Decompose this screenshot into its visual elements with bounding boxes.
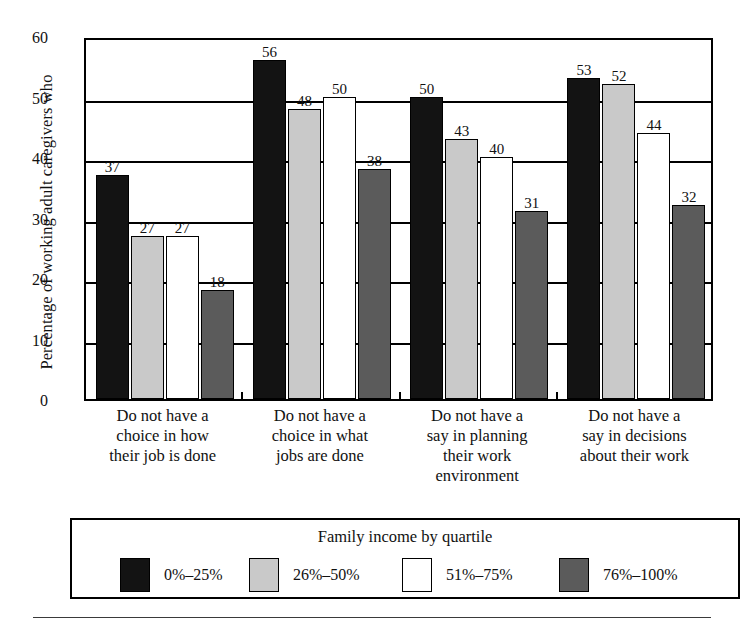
- x-axis-label-line: say in decisions: [556, 426, 713, 446]
- bar: [166, 236, 199, 399]
- x-axis-tick: [241, 392, 243, 401]
- bar-value-label: 18: [210, 275, 225, 290]
- legend-items: 0%–25%26%–50%51%–75%76%–100%: [72, 556, 738, 596]
- x-axis-label-line: choice in what: [241, 426, 398, 446]
- bar-value-label: 50: [332, 82, 347, 97]
- y-axis-tick-label: 40: [0, 150, 48, 168]
- bar-value-label: 38: [367, 154, 382, 169]
- y-axis-tick-label: 10: [0, 332, 48, 350]
- x-axis-label-line: Do not have a: [399, 406, 556, 426]
- bar: [358, 169, 391, 399]
- bar: [602, 84, 635, 399]
- bar-value-label: 31: [524, 196, 539, 211]
- x-axis-label-line: say in planning: [399, 426, 556, 446]
- x-axis-label-line: Do not have a: [241, 406, 398, 426]
- x-axis-label-line: their work: [399, 446, 556, 466]
- x-axis-tick: [399, 392, 401, 401]
- bar: [567, 78, 600, 399]
- y-axis-tick-label: 30: [0, 211, 48, 229]
- x-axis-category-label: Do not have asay in planningtheir worken…: [399, 406, 556, 486]
- legend-label: 0%–25%: [164, 566, 223, 584]
- figure: Percentage of working adult caregivers w…: [0, 0, 743, 634]
- bar-value-label: 27: [140, 221, 155, 236]
- bar: [323, 97, 356, 400]
- y-axis-tick-label: 60: [0, 29, 48, 47]
- x-axis-category-label: Do not have achoice in whatjobs are done: [241, 406, 398, 466]
- bar-value-label: 50: [419, 82, 434, 97]
- bar: [445, 139, 478, 399]
- legend-title: Family income by quartile: [72, 527, 738, 547]
- x-axis-tick: [556, 392, 558, 401]
- bar-value-label: 32: [681, 190, 696, 205]
- legend: Family income by quartile 0%–25%26%–50%5…: [70, 518, 740, 599]
- bar-value-label: 40: [489, 142, 504, 157]
- bar: [253, 60, 286, 399]
- legend-item[interactable]: 0%–25%: [120, 556, 223, 594]
- bar: [410, 97, 443, 400]
- bar-value-label: 48: [297, 94, 312, 109]
- legend-label: 51%–75%: [446, 566, 513, 584]
- x-axis-label-line: Do not have a: [556, 406, 713, 426]
- plot-area: 37272718564850385043403153524432: [84, 38, 713, 401]
- bar: [288, 109, 321, 399]
- x-axis-label-line: choice in how: [84, 426, 241, 446]
- bar-value-label: 44: [646, 118, 661, 133]
- y-axis-tick-label: 50: [0, 90, 48, 108]
- bar-value-label: 43: [454, 124, 469, 139]
- bar-value-label: 53: [576, 63, 591, 78]
- x-axis-category-labels: Do not have achoice in howtheir job is d…: [84, 406, 713, 502]
- bottom-rule: [33, 617, 711, 618]
- y-axis-tick-label: 0: [0, 392, 48, 410]
- bar-series-container: 37272718564850385043403153524432: [86, 40, 711, 399]
- bar-value-label: 27: [175, 221, 190, 236]
- x-axis-label-line: about their work: [556, 446, 713, 466]
- legend-label: 26%–50%: [293, 566, 360, 584]
- x-axis-label-line: environment: [399, 466, 556, 486]
- bar-value-label: 56: [262, 45, 277, 60]
- x-axis-label-line: Do not have a: [84, 406, 241, 426]
- bar-value-label: 37: [105, 160, 120, 175]
- bar: [131, 236, 164, 399]
- legend-swatch: [402, 558, 432, 592]
- bar: [480, 157, 513, 399]
- bar: [96, 175, 129, 399]
- bar: [201, 290, 234, 399]
- x-axis-category-label: Do not have asay in decisionsabout their…: [556, 406, 713, 466]
- legend-swatch: [120, 558, 150, 592]
- bar: [515, 211, 548, 399]
- legend-swatch: [559, 558, 589, 592]
- legend-item[interactable]: 26%–50%: [249, 556, 360, 594]
- legend-item[interactable]: 76%–100%: [559, 556, 678, 594]
- bar: [637, 133, 670, 399]
- legend-item[interactable]: 51%–75%: [402, 556, 513, 594]
- x-axis-category-label: Do not have achoice in howtheir job is d…: [84, 406, 241, 466]
- legend-swatch: [249, 558, 279, 592]
- x-axis-label-line: their job is done: [84, 446, 241, 466]
- y-axis-tick-label: 20: [0, 271, 48, 289]
- legend-label: 76%–100%: [603, 566, 678, 584]
- bar-value-label: 52: [611, 69, 626, 84]
- bar: [672, 205, 705, 399]
- x-axis-label-line: jobs are done: [241, 446, 398, 466]
